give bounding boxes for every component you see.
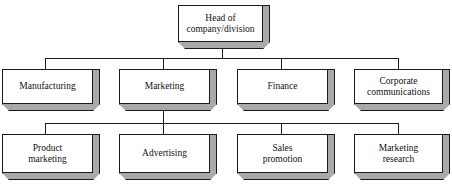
node-advertising-bottom-face [119, 173, 217, 180]
node-sales-promotion-front-face: Sales promotion [237, 134, 328, 173]
node-marketing-bottom-face [119, 104, 217, 111]
node-manufacturing-front-face: Manufacturing [2, 69, 93, 104]
node-marketing-label: Marketing [145, 81, 185, 92]
node-manufacturing-label: Manufacturing [19, 81, 75, 92]
node-manufacturing-bottom-face [2, 104, 100, 111]
org-chart: Head of company/division Manufacturing M… [0, 0, 452, 191]
node-product-marketing-front-face: Product marketing [2, 134, 93, 173]
node-advertising-front-face: Advertising [119, 134, 210, 173]
bus-level2 [45, 58, 399, 59]
node-finance[interactable]: Finance [237, 69, 335, 111]
node-corporate-communications-front-face: Corporate communications [354, 69, 443, 104]
node-marketing-front-face: Marketing [119, 69, 210, 104]
node-sales-promotion[interactable]: Sales promotion [237, 134, 335, 180]
node-product-marketing-bottom-face [2, 173, 100, 180]
node-sales-promotion-bottom-face [237, 173, 335, 180]
node-marketing-research-label: Marketing research [379, 143, 419, 164]
node-finance-bottom-face [237, 104, 335, 111]
bus-level3 [45, 123, 399, 124]
node-head[interactable]: Head of company/division [178, 5, 270, 49]
node-finance-front-face: Finance [237, 69, 328, 104]
node-corporate-communications[interactable]: Corporate communications [354, 69, 450, 111]
edge-to-marketing-research [398, 123, 399, 134]
node-marketing-research-front-face: Marketing research [354, 134, 443, 173]
node-product-marketing[interactable]: Product marketing [2, 134, 100, 180]
edge-to-product-marketing [45, 123, 46, 134]
node-marketing-research[interactable]: Marketing research [354, 134, 450, 180]
node-corporate-communications-label: Corporate communications [367, 76, 430, 97]
edge-to-sales-promotion [281, 123, 282, 134]
node-advertising[interactable]: Advertising [119, 134, 217, 180]
edge-to-marketing [163, 58, 164, 69]
edge-to-advertising [163, 123, 164, 134]
edge-to-corporate-communications [398, 58, 399, 69]
node-product-marketing-label: Product marketing [28, 143, 67, 164]
edge-to-finance [281, 58, 282, 69]
node-marketing[interactable]: Marketing [119, 69, 217, 111]
node-marketing-research-bottom-face [354, 173, 450, 180]
node-corporate-communications-bottom-face [354, 104, 450, 111]
node-head-bottom-face [178, 42, 270, 49]
edge-to-manufacturing [45, 58, 46, 69]
node-advertising-label: Advertising [142, 148, 187, 159]
node-finance-label: Finance [267, 81, 297, 92]
node-manufacturing[interactable]: Manufacturing [2, 69, 100, 111]
node-sales-promotion-label: Sales promotion [263, 143, 303, 164]
node-head-front-face: Head of company/division [178, 5, 263, 42]
node-head-label: Head of company/division [186, 13, 254, 34]
